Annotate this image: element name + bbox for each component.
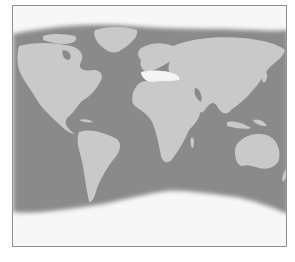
world-map xyxy=(13,6,287,247)
map-frame xyxy=(12,5,287,247)
